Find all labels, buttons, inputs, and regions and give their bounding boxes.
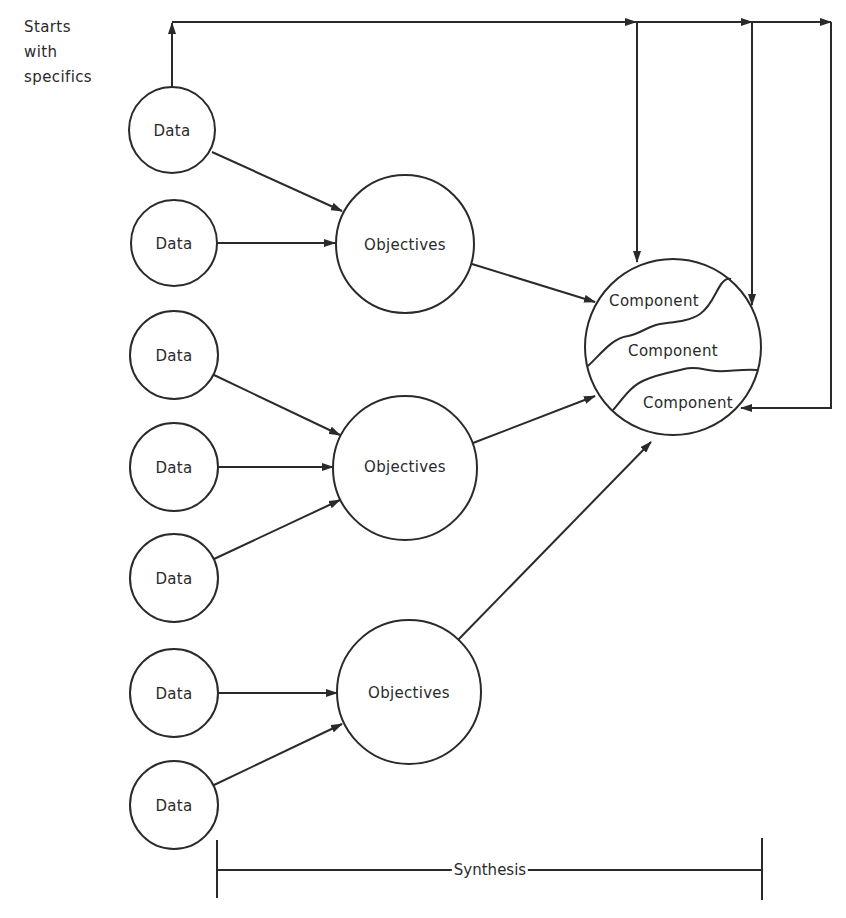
arrow-objectives1-system	[472, 264, 595, 302]
side-note-line: Starts	[24, 15, 92, 40]
component-label: Component	[628, 342, 718, 360]
data-label: Data	[155, 797, 192, 815]
data-label: Data	[155, 570, 192, 588]
arrow-objectives2-system	[473, 396, 595, 443]
side-note: Starts with specifics	[24, 15, 92, 90]
side-note-line: with	[24, 40, 92, 65]
arrow-data3-objectives2	[214, 375, 340, 435]
side-note-line: specifics	[24, 65, 92, 90]
objectives-label: Objectives	[364, 458, 446, 476]
arrow-data5-objectives2	[214, 500, 340, 559]
data-label: Data	[155, 459, 192, 477]
data-label: Data	[155, 235, 192, 253]
data-label: Data	[153, 122, 190, 140]
synthesis-label: Synthesis	[452, 861, 528, 879]
objectives-label: Objectives	[364, 236, 446, 254]
data-label: Data	[155, 685, 192, 703]
objectives-label: Objectives	[368, 684, 450, 702]
component-label: Component	[643, 394, 733, 412]
arrow-data7-objectives3	[214, 724, 342, 785]
arrow-data1-objectives1	[212, 152, 342, 211]
data-label: Data	[155, 347, 192, 365]
component-label: Component	[609, 292, 699, 310]
arrow-objectives3-system	[458, 442, 651, 640]
right-loop-line	[752, 22, 831, 408]
